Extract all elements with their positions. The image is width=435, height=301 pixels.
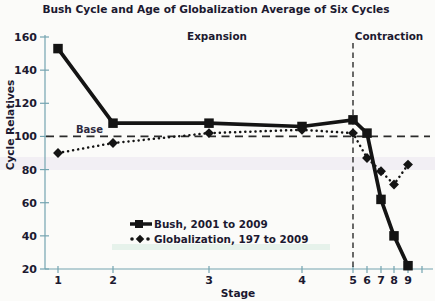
y-tick-label: 140: [14, 64, 37, 77]
data-point-square: [348, 115, 358, 125]
data-point-square: [204, 118, 214, 128]
legend-label: Globalization, 197 to 2009: [154, 233, 308, 245]
data-point-diamond: [108, 138, 118, 148]
y-tick-label: 160: [14, 31, 37, 44]
x-axis-title: Stage: [221, 287, 256, 299]
data-point-square: [53, 44, 63, 54]
expansion-label: Expansion: [187, 30, 247, 42]
data-point-square: [362, 128, 372, 138]
legend: Bush, 2001 to 2009Globalization, 197 to …: [130, 218, 308, 245]
x-tick-label: 6: [363, 274, 371, 287]
data-point-square: [376, 195, 386, 205]
data-point-square: [108, 118, 118, 128]
chart-title: Bush Cycle and Age of Globalization Aver…: [42, 3, 389, 15]
x-tick-label: 4: [298, 274, 306, 287]
chart-svg: Bush Cycle and Age of Globalization Aver…: [0, 0, 435, 301]
y-tick-label: 80: [22, 164, 38, 177]
y-tick-label: 100: [14, 130, 37, 143]
chart: Bush Cycle and Age of Globalization Aver…: [0, 0, 435, 301]
y-tick-label: 60: [22, 197, 38, 210]
base-label: Base: [76, 124, 103, 135]
x-tick-label: 1: [54, 274, 62, 287]
data-point-diamond: [53, 148, 63, 158]
data-point-diamond: [136, 235, 144, 243]
contraction-label: Contraction: [355, 30, 424, 42]
legend-swatch-dot: [146, 237, 150, 241]
x-tick-label: 2: [109, 274, 117, 287]
legend-swatch-dot: [130, 237, 134, 241]
x-tick-label: 5: [349, 274, 357, 287]
y-tick-label: 120: [14, 97, 37, 110]
x-tick-label: 3: [205, 274, 213, 287]
data-point-square: [389, 231, 399, 241]
y-tick-label: 40: [22, 230, 38, 243]
legend-label: Bush, 2001 to 2009: [154, 218, 268, 230]
y-axis: 20406080100120140160: [14, 31, 49, 276]
data-point-square: [403, 261, 413, 271]
y-tick-label: 20: [22, 263, 38, 276]
x-tick-label: 7: [377, 274, 385, 287]
y-axis-title: Cycle Relatives: [4, 80, 16, 171]
x-tick-label: 8: [390, 274, 398, 287]
x-axis: 123456789: [45, 266, 433, 287]
x-tick-label: 9: [404, 274, 412, 287]
data-point-square: [135, 220, 143, 228]
